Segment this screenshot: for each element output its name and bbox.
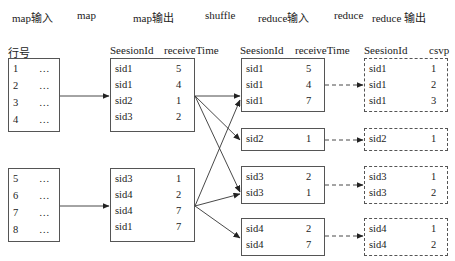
stage-label-reduce: reduce [334, 9, 363, 21]
session-id: sid3 [115, 172, 133, 186]
receive-time: 1 [176, 94, 181, 108]
csvp-value: 2 [431, 238, 436, 252]
row-number: 1 [13, 62, 18, 76]
session-id: sid1 [115, 78, 133, 92]
reduce-output-block-sid4: sid41 sid42 [364, 218, 448, 256]
reduce-output-row: sid21 [365, 132, 447, 146]
receive-time: 4 [176, 78, 181, 92]
reduce-input-row: sid32 [242, 170, 324, 184]
row-ellipsis: … [39, 189, 50, 203]
row-ellipsis: … [39, 206, 50, 220]
stage-label-reduce-input: reduce输入 [258, 9, 309, 25]
session-id: sid2 [246, 132, 264, 146]
session-id: sid1 [369, 94, 387, 108]
csvp-value: 2 [431, 78, 436, 92]
reduce-output-block-sid1: sid11 sid12 sid13 [364, 58, 448, 112]
session-id: sid2 [115, 94, 133, 108]
reduce-output-row: sid11 [365, 62, 447, 76]
input-block-1: 1… 2… 3… 4… [8, 58, 60, 132]
session-id: sid1 [369, 62, 387, 76]
receive-time: 7 [176, 204, 181, 218]
csvp-value: 1 [431, 132, 436, 146]
row-number: 3 [13, 96, 18, 110]
row-ellipsis: … [39, 113, 50, 127]
session-id: sid1 [115, 62, 133, 76]
input-row: 6… [9, 189, 59, 203]
reduce-output-block-sid2: sid21 [364, 128, 448, 151]
reduce-output-row: sid31 [365, 170, 447, 184]
input-row: 7… [9, 206, 59, 220]
session-id: sid1 [115, 220, 133, 234]
session-id: sid4 [246, 222, 264, 236]
map-output-block-2: sid31 sid42 sid47 sid17 [110, 168, 195, 242]
reduce-input-row: sid47 [242, 238, 324, 252]
reduce-output-row: sid12 [365, 78, 447, 92]
reduce-input-row: sid42 [242, 222, 324, 236]
session-id: sid1 [369, 78, 387, 92]
csvp-value: 2 [431, 186, 436, 200]
row-number: 6 [13, 189, 18, 203]
receive-time: 1 [176, 172, 181, 186]
csvp-value: 1 [431, 222, 436, 236]
map-output-header-session: SeesionId [110, 44, 153, 56]
receive-time: 1 [306, 186, 311, 200]
input-block-2: 5… 6… 7… 8… [8, 168, 60, 242]
session-id: sid1 [246, 62, 264, 76]
row-ellipsis: … [39, 62, 50, 76]
shuffle-arrow-sid2 [195, 96, 240, 140]
reduce-input-row: sid21 [242, 132, 324, 146]
row-ellipsis: … [39, 172, 50, 186]
reduce-output-row: sid13 [365, 94, 447, 108]
map-output-row: sid42 [111, 188, 194, 202]
receive-time: 2 [176, 188, 181, 202]
reduce-input-header-time: receiveTime [295, 44, 350, 56]
map-output-header-time: receiveTime [164, 44, 219, 56]
reduce-input-block-sid1: sid15 sid14 sid17 [241, 58, 325, 112]
stage-label-shuffle: shuffle [205, 9, 235, 21]
shuffle-arrow-sid4 [195, 206, 240, 238]
stage-label-map-output: map输出 [133, 9, 174, 25]
reduce-input-row: sid15 [242, 62, 324, 76]
session-id: sid3 [369, 186, 387, 200]
row-number: 4 [13, 113, 18, 127]
map-output-row: sid21 [111, 94, 194, 108]
reduce-output-row: sid41 [365, 222, 447, 236]
input-row: 5… [9, 172, 59, 186]
receive-time: 7 [176, 220, 181, 234]
session-id: sid2 [369, 132, 387, 146]
stage-label-reduce-output: reduce 输出 [372, 9, 426, 25]
reduce-output-header-session: SeesionId [364, 44, 407, 56]
csvp-value: 1 [431, 62, 436, 76]
map-output-block-1: sid15 sid14 sid21 sid32 [110, 58, 195, 132]
input-row: 2… [9, 79, 59, 93]
row-ellipsis: … [39, 79, 50, 93]
reduce-input-block-sid3: sid32 sid31 [241, 166, 325, 204]
row-number: 2 [13, 79, 18, 93]
reduce-output-row: sid32 [365, 186, 447, 200]
reduce-output-row: sid42 [365, 238, 447, 252]
receive-time: 5 [306, 62, 311, 76]
row-ellipsis: … [39, 96, 50, 110]
reduce-input-row: sid14 [242, 78, 324, 92]
reduce-input-row: sid31 [242, 186, 324, 200]
receive-time: 7 [306, 94, 311, 108]
row-ellipsis: … [39, 223, 50, 237]
receive-time: 1 [306, 132, 311, 146]
receive-time: 5 [176, 62, 181, 76]
row-number: 8 [13, 223, 18, 237]
session-id: sid3 [246, 170, 264, 184]
stage-label-map: map [77, 9, 96, 21]
map-output-row: sid15 [111, 62, 194, 76]
receive-time: 2 [306, 170, 311, 184]
stage-label-map-input: map输入 [12, 9, 53, 25]
csvp-value: 1 [431, 170, 436, 184]
map-output-row: sid31 [111, 172, 194, 186]
session-id: sid4 [115, 188, 133, 202]
reduce-input-block-sid4: sid42 sid47 [241, 218, 325, 256]
map-output-row: sid47 [111, 204, 194, 218]
session-id: sid4 [369, 222, 387, 236]
reduce-input-header-session: SeesionId [240, 44, 283, 56]
reduce-input-block-sid2: sid21 [241, 128, 325, 151]
input-row: 1… [9, 62, 59, 76]
session-id: sid4 [369, 238, 387, 252]
